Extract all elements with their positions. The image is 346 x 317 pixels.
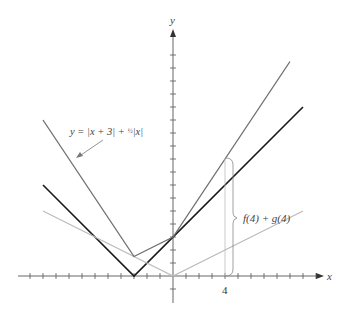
svg-text:y = |x + 3| + ½|x|: y = |x + 3| + ½|x| xyxy=(69,126,143,137)
y-axis-label: y xyxy=(169,14,175,26)
y-axis-arrow-icon xyxy=(170,29,176,37)
curve-sum xyxy=(43,62,290,257)
axes xyxy=(18,29,324,303)
x-axis-arrow-icon xyxy=(316,273,324,279)
curve-label: y = |x + 3| + ½|x| xyxy=(69,126,143,137)
arrowhead-icon xyxy=(76,152,83,158)
curve-label-abs1: x + 3 xyxy=(89,126,112,137)
brace-label: f(4) + g(4) xyxy=(243,212,290,225)
graph: f(4) + g(4) y = |x + 3| + ½|x| x y 4 xyxy=(0,0,346,317)
curve-label-plus: + xyxy=(115,126,127,137)
x-tick-label-4: 4 xyxy=(222,284,228,296)
x-axis-label: x xyxy=(326,270,332,282)
curve-label-y: y = xyxy=(69,126,87,137)
